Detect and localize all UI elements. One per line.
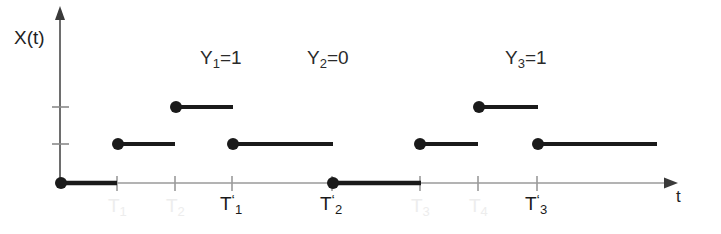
x-tick-label-t2-sub: 2 (178, 204, 185, 219)
x-tick-label-t2: T2 (166, 196, 185, 215)
annotation-y2-name: Y (307, 47, 320, 68)
x-tick-label-tp3: T‘3 (525, 194, 547, 213)
point-jump-tp1 (227, 138, 239, 150)
point-jump-t1 (112, 138, 124, 150)
x-tick-label-t4-name: T (469, 195, 481, 216)
x-tick-label-t2-name: T (166, 195, 178, 216)
x-tick-label-tp2: T‘2 (320, 194, 342, 213)
point-origin (55, 177, 67, 189)
annotation-y3-value: =1 (525, 47, 547, 68)
y-axis-label: X(t) (14, 28, 45, 47)
x-tick-label-tp1-sub: 1 (235, 202, 242, 217)
annotation-y2-sub: 2 (320, 56, 327, 71)
step-function-chart: X(t) t Y1=1 Y2=0 Y3=1 T1 T2 T‘1 T‘2 T3 T… (0, 0, 721, 234)
step-path-group (55, 101, 657, 189)
x-tick-label-t1: T1 (108, 196, 127, 215)
annotation-y1-name: Y (200, 47, 213, 68)
annotation-y3: Y3=1 (505, 48, 547, 67)
annotation-y3-sub: 3 (518, 56, 525, 71)
point-jump-t4 (473, 101, 485, 113)
x-tick-label-tp1: T‘1 (220, 194, 242, 213)
x-tick-label-t3: T3 (411, 196, 430, 215)
x-tick-label-t4: T4 (469, 196, 488, 215)
x-tick-label-t4-sub: 4 (481, 204, 488, 219)
x-tick-label-tp3-name: T (525, 193, 537, 214)
x-tick-label-tp2-sub: 2 (335, 202, 342, 217)
point-jump-t3 (414, 138, 426, 150)
point-jump-tp3 (532, 138, 544, 150)
axes-group (52, 6, 678, 189)
x-tick-label-t1-name: T (108, 195, 120, 216)
annotation-y1: Y1=1 (200, 48, 242, 67)
x-tick-label-t1-sub: 1 (120, 204, 127, 219)
x-tick-label-tp2-name: T (320, 193, 332, 214)
x-tick-label-tp1-name: T (220, 193, 232, 214)
annotation-y1-sub: 1 (213, 56, 220, 71)
annotation-y3-name: Y (505, 47, 518, 68)
point-jump-t2 (170, 101, 182, 113)
point-jump-tp2 (327, 177, 339, 189)
t-axis-label: t (676, 188, 681, 205)
annotation-y1-value: =1 (220, 47, 242, 68)
y-axis-arrowhead (55, 6, 65, 20)
x-tick-label-tp3-sub: 3 (540, 202, 547, 217)
annotation-y2: Y2=0 (307, 48, 349, 67)
x-tick-label-t3-sub: 3 (423, 204, 430, 219)
annotation-y2-value: =0 (327, 47, 349, 68)
x-tick-label-t3-name: T (411, 195, 423, 216)
